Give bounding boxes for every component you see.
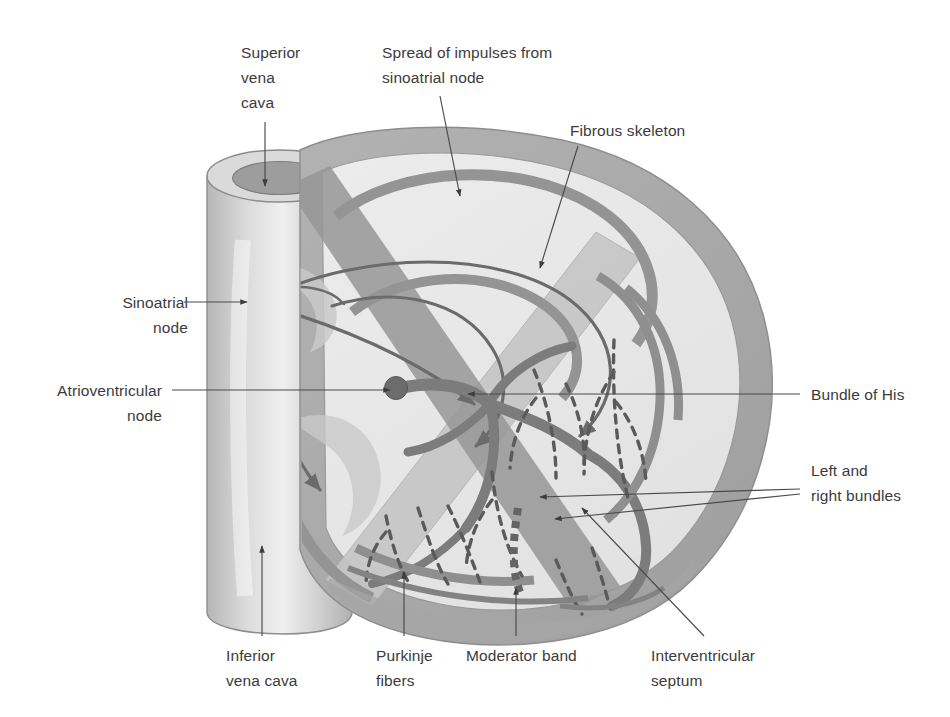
label-inferior-vena-cava: Inferiorvena cava	[226, 643, 298, 693]
label-bundle-of-his: Bundle of His	[811, 382, 905, 407]
label-superior-vena-cava-line-1: vena	[241, 65, 300, 90]
label-superior-vena-cava: Superiorvenacava	[241, 40, 300, 115]
label-superior-vena-cava-line-2: cava	[241, 90, 300, 115]
label-interventricular-septum: Interventricularseptum	[651, 643, 755, 693]
label-left-and-right-bundles-line-1: right bundles	[811, 483, 901, 508]
label-spread-of-impulses: Spread of impulses fromsinoatrial node	[382, 40, 552, 90]
label-sinoatrial-node-line-0: Sinoatrial	[0, 290, 188, 315]
label-fibrous-skeleton: Fibrous skeleton	[570, 118, 685, 143]
label-moderator-band-line-0: Moderator band	[466, 643, 577, 668]
label-spread-of-impulses-line-1: sinoatrial node	[382, 65, 552, 90]
label-interventricular-septum-line-0: Interventricular	[651, 643, 755, 668]
label-moderator-band: Moderator band	[466, 643, 577, 668]
label-purkinje-fibers-line-1: fibers	[376, 668, 433, 693]
label-left-and-right-bundles: Left andright bundles	[811, 458, 901, 508]
label-atrioventricular-node-line-1: node	[0, 403, 162, 428]
label-interventricular-septum-line-1: septum	[651, 668, 755, 693]
label-purkinje-fibers-line-0: Purkinje	[376, 643, 433, 668]
atrioventricular-node-marker	[385, 377, 408, 400]
label-atrioventricular-node: Atrioventricularnode	[0, 378, 162, 428]
label-superior-vena-cava-line-0: Superior	[241, 40, 300, 65]
label-atrioventricular-node-line-0: Atrioventricular	[0, 378, 162, 403]
figure-canvas: SuperiorvenacavaSpread of impulses froms…	[0, 0, 950, 717]
label-left-and-right-bundles-line-0: Left and	[811, 458, 901, 483]
heart-conduction-diagram	[0, 0, 950, 717]
label-inferior-vena-cava-line-1: vena cava	[226, 668, 298, 693]
label-bundle-of-his-line-0: Bundle of His	[811, 382, 905, 407]
label-inferior-vena-cava-line-0: Inferior	[226, 643, 298, 668]
label-spread-of-impulses-line-0: Spread of impulses from	[382, 40, 552, 65]
label-sinoatrial-node-line-1: node	[0, 315, 188, 340]
label-purkinje-fibers: Purkinjefibers	[376, 643, 433, 693]
label-sinoatrial-node: Sinoatrialnode	[0, 290, 188, 340]
label-fibrous-skeleton-line-0: Fibrous skeleton	[570, 118, 685, 143]
